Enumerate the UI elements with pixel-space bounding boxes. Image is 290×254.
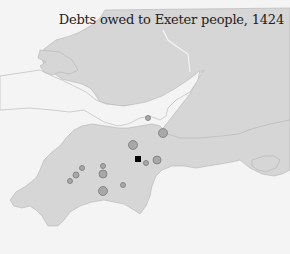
debt-marker [146, 116, 151, 121]
debt-marker [101, 164, 106, 169]
debt-marker [121, 183, 126, 188]
debt-marker [80, 166, 85, 171]
debt-marker [99, 170, 107, 178]
debt-marker [73, 172, 79, 178]
debt-marker [68, 179, 73, 184]
debt-marker [153, 156, 161, 164]
debt-marker [159, 129, 168, 138]
map-title: Debts owed to Exeter people, 1424 [59, 12, 284, 27]
debt-marker [129, 141, 138, 150]
exeter-marker [135, 156, 141, 162]
debt-marker [144, 161, 149, 166]
debt-marker [99, 187, 108, 196]
map [0, 0, 290, 254]
